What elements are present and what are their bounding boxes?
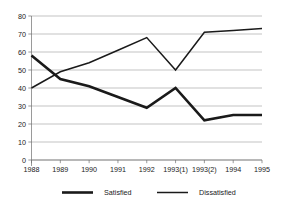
x-axis-tick-label: 1992 [139, 165, 155, 174]
y-axis-tick-label: 70 [18, 30, 26, 39]
x-axis-tick-label: 1994 [225, 165, 241, 174]
chart-legend: SatisfiedDissatisfied [62, 188, 236, 197]
line-chart-canvas: 01020304050607080 1988198919901991199219… [0, 0, 281, 207]
x-axis-tick-group: 198819891990199119921993(1)1993(2)199419… [24, 160, 271, 174]
y-axis-tick-label: 20 [18, 120, 26, 129]
x-axis-tick-label: 1993(1) [163, 165, 188, 174]
x-axis-tick-label: 1993(2) [192, 165, 217, 174]
y-axis-tick-label: 50 [18, 66, 26, 75]
x-axis-tick-label: 1990 [81, 165, 97, 174]
y-axis-tick-label: 60 [18, 48, 26, 57]
y-axis-tick-group: 01020304050607080 [18, 12, 32, 165]
y-axis-tick-label: 0 [22, 156, 26, 165]
legend-label-dissatisfied: Dissatisfied [199, 188, 236, 197]
x-axis-tick-label: 1991 [110, 165, 126, 174]
y-axis-tick-label: 80 [18, 12, 26, 21]
chart-figure: 01020304050607080 1988198919901991199219… [0, 0, 281, 207]
y-axis-tick-label: 30 [18, 102, 26, 111]
legend-label-satisfied: Satisfied [104, 188, 132, 197]
y-axis-tick-label: 10 [18, 138, 26, 147]
x-axis-tick-label: 1989 [52, 165, 68, 174]
x-axis-tick-label: 1995 [254, 165, 270, 174]
y-axis-tick-label: 40 [18, 84, 26, 93]
data-series-group [32, 29, 263, 121]
series-line-dissatisfied [32, 29, 263, 88]
